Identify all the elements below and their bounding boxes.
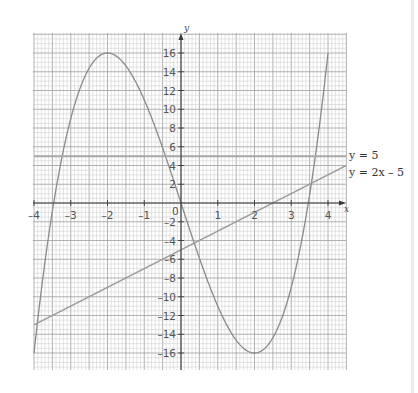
svg-text:–10: –10 — [157, 291, 176, 303]
axes — [33, 33, 346, 370]
svg-text:–2: –2 — [102, 209, 114, 221]
page-edge-divider — [411, 0, 414, 393]
svg-text:–12: –12 — [157, 310, 176, 322]
svg-text:10: 10 — [163, 103, 176, 115]
svg-text:2: 2 — [251, 209, 258, 221]
svg-text:–3: –3 — [65, 209, 77, 221]
svg-text:4: 4 — [169, 160, 176, 172]
svg-text:3: 3 — [288, 209, 295, 221]
x-axis-name: x — [344, 204, 349, 214]
label-y-equals-2x-minus-5: y = 2x – 5 — [348, 166, 404, 179]
svg-text:–2: –2 — [164, 216, 176, 228]
svg-text:2: 2 — [169, 178, 176, 190]
svg-text:–6: –6 — [164, 253, 176, 265]
y-axis-name: y — [183, 23, 190, 33]
svg-text:–14: –14 — [157, 328, 176, 340]
svg-text:–1: –1 — [138, 209, 150, 221]
graph-paper-grid — [33, 33, 346, 370]
svg-text:–16: –16 — [157, 347, 176, 359]
svg-text:8: 8 — [169, 122, 176, 134]
svg-text:–4: –4 — [164, 235, 176, 247]
svg-text:4: 4 — [325, 209, 332, 221]
svg-text:14: 14 — [163, 66, 177, 78]
svg-text:12: 12 — [163, 85, 176, 97]
svg-text:–4: –4 — [28, 209, 40, 221]
svg-text:1: 1 — [214, 209, 221, 221]
svg-text:6: 6 — [169, 141, 176, 153]
svg-text:16: 16 — [163, 47, 177, 59]
label-y-equals-5: y = 5 — [348, 149, 378, 162]
cubic-graph-chart: –4–3–2–101234161412108642–2–4–6–8–10–12–… — [0, 0, 418, 393]
svg-text:–8: –8 — [164, 272, 176, 284]
